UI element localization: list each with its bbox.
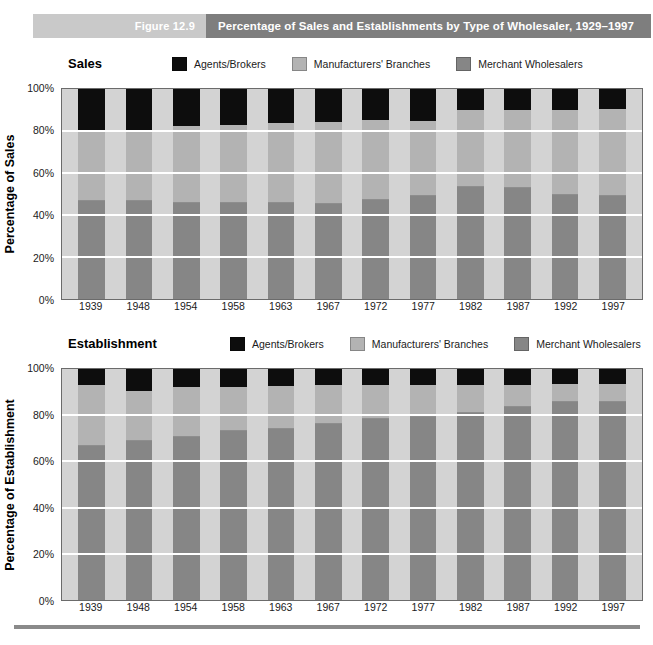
bar-segment-branches <box>173 387 200 436</box>
plot-area-establishment <box>61 368 643 601</box>
bar-segment-merchant <box>362 419 389 600</box>
stacked-bar[interactable] <box>220 89 247 299</box>
legend-swatch-branches-icon <box>292 57 307 71</box>
y-axis-ticks-sales: 100%80%60%40%20%0% <box>18 88 58 300</box>
x-axis-tick-label: 1948 <box>115 601 163 613</box>
stacked-bar[interactable] <box>362 369 389 600</box>
stacked-bar[interactable] <box>457 369 484 600</box>
panel-sales-head: Sales Agents/Brokers Manufacturers' Bran… <box>0 56 653 78</box>
legend-label-merchant: Merchant Wholesalers <box>478 58 582 70</box>
x-axis-tick-label: 1997 <box>590 601 638 613</box>
bar-segment-branches <box>315 385 342 424</box>
stacked-bar[interactable] <box>410 369 437 600</box>
bar-segment-agents <box>457 89 484 110</box>
bar-slot <box>210 89 257 299</box>
stacked-bar[interactable] <box>552 369 579 600</box>
y-axis-tick-label: 100% <box>27 82 54 94</box>
bar-segment-branches <box>268 123 295 202</box>
bar-segment-merchant <box>599 402 626 600</box>
x-axis-tick-label: 1972 <box>352 300 400 312</box>
legend-item-branches: Manufacturers' Branches <box>350 337 488 351</box>
bar-segment-agents <box>268 369 295 386</box>
bar-segment-merchant <box>315 204 342 299</box>
bar-slot <box>257 369 304 600</box>
stacked-bar[interactable] <box>126 89 153 299</box>
bar-slot <box>447 89 494 299</box>
bar-segment-branches <box>599 384 626 402</box>
plot-area-sales <box>61 88 643 300</box>
x-axis-tick-label: 1939 <box>67 601 115 613</box>
stacked-bar[interactable] <box>173 89 200 299</box>
bar-segment-branches <box>126 130 153 201</box>
stacked-bar[interactable] <box>268 89 295 299</box>
legend-swatch-agents-icon <box>172 57 187 71</box>
bar-slot <box>399 369 446 600</box>
bar-segment-merchant <box>268 429 295 600</box>
bar-segment-branches <box>504 385 531 407</box>
bar-segment-merchant <box>78 446 105 600</box>
y-axis-tick-label: 60% <box>33 455 54 467</box>
stacked-bar[interactable] <box>126 369 153 600</box>
stacked-bar[interactable] <box>78 369 105 600</box>
bar-segment-branches <box>78 131 105 201</box>
bar-segment-branches <box>410 121 437 195</box>
x-axis-tick-label: 1982 <box>447 300 495 312</box>
bar-slot <box>541 89 588 299</box>
x-axis-tick-label: 1987 <box>495 300 543 312</box>
bar-slot <box>115 369 162 600</box>
legend-item-merchant: Merchant Wholesalers <box>514 337 640 351</box>
y-axis-tick-label: 0% <box>39 595 54 607</box>
bar-segment-merchant <box>315 424 342 600</box>
bar-segment-agents <box>457 369 484 385</box>
bar-segment-merchant <box>410 196 437 299</box>
bar-segment-merchant <box>504 407 531 600</box>
stacked-bar[interactable] <box>599 89 626 299</box>
panel-establishment-title: Establishment <box>68 336 157 351</box>
x-axis-tick-label: 1972 <box>352 601 400 613</box>
stacked-bar[interactable] <box>599 369 626 600</box>
y-axis-tick-label: 20% <box>33 548 54 560</box>
figure-title-band: Percentage of Sales and Establishments b… <box>206 14 651 38</box>
gridline <box>62 507 642 509</box>
bar-slot <box>589 89 636 299</box>
y-axis-ticks-establishment: 100%80%60%40%20%0% <box>18 368 58 601</box>
stacked-bar[interactable] <box>268 369 295 600</box>
bar-segment-branches <box>220 125 247 203</box>
legend-item-agents: Agents/Brokers <box>230 337 324 351</box>
bar-segment-agents <box>552 369 579 384</box>
stacked-bar[interactable] <box>504 369 531 600</box>
panel-establishment-head: Establishment Agents/Brokers Manufacture… <box>0 336 653 358</box>
stacked-bar[interactable] <box>552 89 579 299</box>
stacked-bar[interactable] <box>504 89 531 299</box>
bar-slot <box>494 369 541 600</box>
stacked-bar[interactable] <box>362 89 389 299</box>
bar-segment-merchant <box>457 187 484 299</box>
stacked-bar[interactable] <box>410 89 437 299</box>
bar-segment-merchant <box>126 441 153 600</box>
legend-item-branches: Manufacturers' Branches <box>292 57 430 71</box>
legend-swatch-branches-icon <box>350 337 365 351</box>
stacked-bar[interactable] <box>315 89 342 299</box>
bar-segment-merchant <box>173 203 200 299</box>
x-axis-tick-label: 1987 <box>495 601 543 613</box>
bar-segment-branches <box>268 386 295 428</box>
bar-segment-merchant <box>220 431 247 600</box>
stacked-bar[interactable] <box>78 89 105 299</box>
legend-label-branches: Manufacturers' Branches <box>314 58 430 70</box>
stacked-bar[interactable] <box>173 369 200 600</box>
gridline <box>62 172 642 174</box>
x-axis-tick-label: 1992 <box>542 601 590 613</box>
bar-segment-agents <box>410 89 437 121</box>
gridline <box>62 214 642 216</box>
bar-segment-agents <box>220 89 247 125</box>
x-axis-tick-label: 1963 <box>257 300 305 312</box>
x-axis-tick-label: 1982 <box>447 601 495 613</box>
y-axis-title-sales: Percentage of Sales <box>0 88 20 300</box>
stacked-bar[interactable] <box>315 369 342 600</box>
bar-slot <box>541 369 588 600</box>
y-axis-title-establishment: Percentage of Establishment <box>0 368 20 601</box>
bar-slot <box>589 369 636 600</box>
stacked-bar[interactable] <box>457 89 484 299</box>
x-axis-tick-label: 1954 <box>162 300 210 312</box>
stacked-bar[interactable] <box>220 369 247 600</box>
